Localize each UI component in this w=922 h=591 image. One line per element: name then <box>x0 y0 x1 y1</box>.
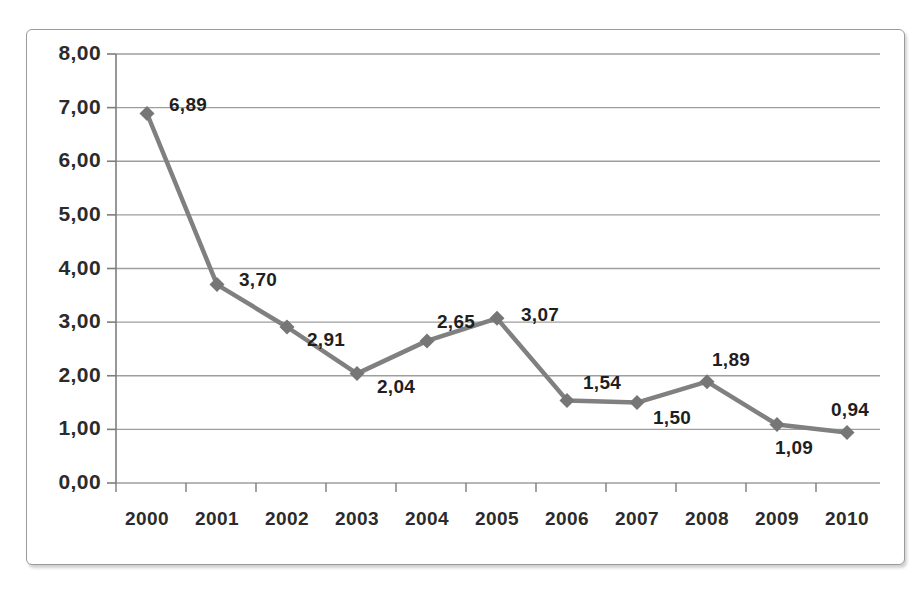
x-axis-tick-label: 2007 <box>602 508 672 530</box>
x-axis-tick-label: 2008 <box>672 508 742 530</box>
y-axis-tick-label: 1,00 <box>21 416 101 440</box>
x-axis-tick-label: 2004 <box>392 508 462 530</box>
x-axis-tick-label: 2006 <box>532 508 602 530</box>
data-point-value-label: 6,89 <box>169 94 207 116</box>
y-axis-tick-label: 6,00 <box>21 148 101 172</box>
y-axis-tick-label: 7,00 <box>21 95 101 119</box>
x-axis-tick-label: 2002 <box>252 508 322 530</box>
data-point-value-label: 2,65 <box>437 311 475 333</box>
y-axis-tick-label: 5,00 <box>21 202 101 226</box>
x-axis-tick-label: 2009 <box>742 508 812 530</box>
y-axis-tick-label: 2,00 <box>21 363 101 387</box>
y-axis-tick-label: 0,00 <box>21 470 101 494</box>
data-point-value-label: 2,91 <box>307 329 345 351</box>
data-point-value-label: 1,54 <box>583 372 621 394</box>
data-point-value-label: 0,94 <box>831 399 869 421</box>
data-point-value-label: 1,50 <box>653 407 691 429</box>
x-axis-tick-label: 2005 <box>462 508 532 530</box>
data-point-value-label: 1,89 <box>712 349 750 371</box>
x-axis-tick-label: 2000 <box>112 508 182 530</box>
y-axis-tick-label: 4,00 <box>21 256 101 280</box>
data-point-value-label: 1,09 <box>775 437 813 459</box>
x-axis-tick-label: 2010 <box>812 508 882 530</box>
data-point-value-label: 3,70 <box>239 269 277 291</box>
chart-border-frame <box>26 29 905 565</box>
x-axis-tick-label: 2003 <box>322 508 392 530</box>
y-axis-tick-label: 3,00 <box>21 309 101 333</box>
x-axis-tick-label: 2001 <box>182 508 252 530</box>
data-point-value-label: 2,04 <box>377 376 415 398</box>
data-point-value-label: 3,07 <box>521 304 559 326</box>
y-axis-tick-label: 8,00 <box>21 41 101 65</box>
